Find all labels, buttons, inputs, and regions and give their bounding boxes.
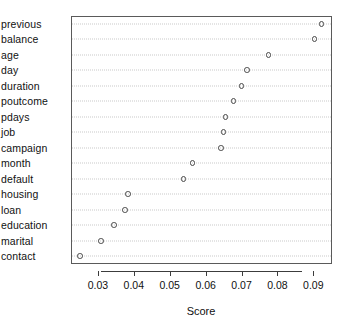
gridline [72,163,331,164]
x-axis-tick-label: 0.05 [150,279,190,291]
x-axis-tick [98,271,99,276]
x-axis-tick [277,271,278,276]
y-axis-label: loan [1,205,69,216]
x-axis-tick [313,271,314,276]
y-axis-label: campaign [1,143,69,154]
gridline [72,132,331,133]
y-axis-label: contact [1,251,69,262]
y-axis-label: job [1,127,69,138]
data-point [231,98,237,104]
data-point [111,222,117,228]
y-axis-label: education [1,220,69,231]
x-axis-tick-label: 0.04 [114,279,154,291]
data-point [319,21,325,27]
y-axis-label: default [1,174,69,185]
dot-chart-figure: previousbalanceagedaydurationpoutcomepda… [0,0,346,335]
x-axis-line [101,271,302,272]
data-point [221,129,227,135]
y-axis-label: balance [1,34,69,45]
y-axis-label: day [1,65,69,76]
x-axis-tick [206,271,207,276]
data-point [312,36,318,42]
gridline [72,147,331,148]
y-axis-label: previous [1,19,69,30]
y-axis-label: age [1,50,69,61]
x-axis-tick [242,271,243,276]
data-point [181,176,187,182]
y-axis-label: housing [1,189,69,200]
y-axis-label: pdays [1,112,69,123]
x-axis-tick [170,271,171,276]
data-point [98,238,104,244]
x-axis: 0.030.040.050.060.070.080.09 [71,271,332,301]
x-axis-tick-label: 0.09 [293,279,333,291]
data-point [223,114,229,120]
data-point [266,52,272,58]
y-axis-category-labels: previousbalanceagedaydurationpoutcomepda… [0,16,69,264]
gridline [72,116,331,117]
gridline [72,54,331,55]
y-axis-label: month [1,158,69,169]
data-point [125,191,131,197]
gridline [72,178,331,179]
x-axis-tick-label: 0.07 [222,279,262,291]
y-axis-label: duration [1,81,69,92]
data-point [218,145,224,151]
y-axis-label: marital [1,236,69,247]
gridline [72,209,331,210]
x-axis-title: Score [0,305,346,317]
gridline [72,194,331,195]
data-point [190,160,196,166]
data-point [122,207,128,213]
data-point [77,253,83,259]
gridline [72,39,331,40]
gridline [72,256,331,257]
x-axis-tick [134,271,135,276]
data-point [244,67,250,73]
plot-area [71,16,332,264]
x-axis-title-text: Score [187,305,216,317]
x-axis-tick-label: 0.06 [186,279,226,291]
gridline [72,101,331,102]
gridline [72,85,331,86]
x-axis-tick-label: 0.08 [257,279,297,291]
gridline [72,70,331,71]
x-axis-tick-label: 0.03 [78,279,118,291]
y-axis-label: poutcome [1,96,69,107]
data-point [239,83,245,89]
gridline [72,240,331,241]
gridline [72,23,331,24]
